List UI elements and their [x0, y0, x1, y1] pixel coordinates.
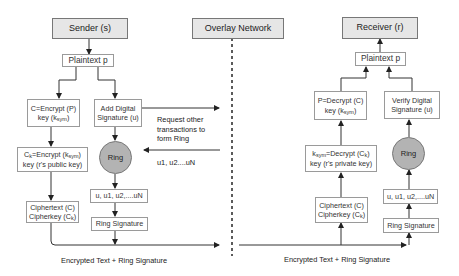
- receiver-decrypt-line1: P=Decrypt (C): [318, 96, 364, 106]
- sender-add-signature-box: Add Digital Signature (u): [94, 99, 142, 127]
- receiver-ring-label: Ring: [401, 149, 416, 158]
- sender-ring-members-box: u, u1, u2,....uN: [90, 189, 148, 203]
- overlay-network-header: Overlay Network: [192, 18, 284, 39]
- sender-bottom-label: Encrypted Text + Ring Signature: [61, 256, 167, 266]
- receiver-ciphertext-box: Ciphertext (C) Cipherkey (Ck): [315, 197, 368, 223]
- receiver-title: Receiver (r): [356, 23, 403, 33]
- receiver-cipher-line1: Ciphertext (C): [319, 201, 364, 211]
- sender-ring-signature-box: Ring Signature: [91, 217, 148, 231]
- receiver-ring-signature-box: Ring Signature: [383, 218, 439, 233]
- receiver-ksym-line1: ksym=Decrypt (Ck): [312, 149, 369, 159]
- receiver-ksym-decrypt-box: ksym=Decrypt (Ck) key (r's private key): [305, 145, 377, 172]
- sender-encrypt-box: C=Encrypt (P) key (ksym): [27, 99, 80, 127]
- overlay-return-label: u1, u2....uN: [157, 158, 195, 168]
- sender-ck-line2: key (r's public key): [23, 160, 82, 170]
- overlay-title: Overlay Network: [205, 24, 272, 34]
- sender-plaintext-box: Plaintext p: [62, 54, 114, 67]
- receiver-bottom-label: Encrypted Text + Ring Signature: [284, 255, 390, 265]
- sender-add-sig-line1: Add Digital: [101, 104, 136, 114]
- sender-plaintext-label: Plaintext p: [68, 56, 107, 66]
- sender-ring-signature: Ring Signature: [96, 219, 144, 229]
- overlay-request-label: Request other transactions to form Ring: [157, 115, 205, 144]
- receiver-plaintext-box: Plaintext p: [355, 52, 406, 66]
- receiver-plaintext-label: Plaintext p: [361, 54, 400, 64]
- sender-encrypt-line1: C=Encrypt (P): [31, 104, 76, 114]
- sender-header: Sender (s): [52, 18, 128, 39]
- receiver-ksym-line2: key (r's private key): [310, 159, 372, 169]
- sender-ring-node: Ring: [99, 141, 132, 174]
- sender-cipher-line2: Cipherkey (Ck): [29, 212, 76, 222]
- receiver-cipher-line2: Cipherkey (Ck): [318, 210, 365, 220]
- receiver-ring-signature: Ring Signature: [387, 221, 435, 231]
- sender-add-sig-line2: Signature (u): [97, 113, 139, 123]
- receiver-ring-members: u, u1, u2,....uN: [387, 192, 434, 202]
- receiver-decrypt-line2: key (ksym): [325, 106, 357, 116]
- sender-ring-members: u, u1, u2,....uN: [95, 191, 142, 201]
- sender-title: Sender (s): [69, 24, 111, 34]
- sender-ring-label: Ring: [108, 153, 123, 162]
- receiver-verify-signature-box: Verify Digital Signature (u): [384, 91, 440, 119]
- receiver-ring-members-box: u, u1, u2,....uN: [383, 189, 438, 204]
- sender-ck-line1: Ck=Encrypt (ksym): [24, 150, 81, 160]
- sender-cipher-line1: Ciphertext (C): [30, 203, 75, 213]
- receiver-decrypt-box: P=Decrypt (C) key (ksym): [314, 91, 367, 120]
- receiver-header: Receiver (r): [342, 17, 418, 39]
- sender-ciphertext-box: Ciphertext (C) Cipherkey (Ck): [26, 201, 79, 223]
- sender-encrypt-line2: key (ksym): [38, 113, 70, 123]
- receiver-verify-line1: Verify Digital: [392, 96, 432, 106]
- connector-lines: [0, 0, 459, 276]
- receiver-verify-line2: Signature (u): [391, 105, 433, 115]
- receiver-ring-node: Ring: [392, 137, 425, 170]
- sender-cipherkey-encrypt-box: Ck=Encrypt (ksym) key (r's public key): [17, 147, 88, 172]
